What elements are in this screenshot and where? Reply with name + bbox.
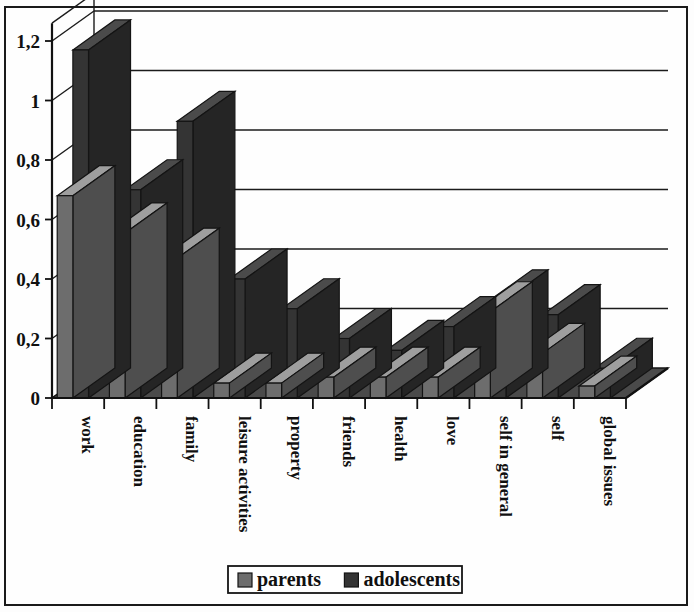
depth-connector-top (52, 0, 94, 23)
legend-label-adolescents: adolescents (363, 568, 460, 590)
x-category-label: self in general (496, 416, 515, 517)
y-tick-label: 1,2 (16, 31, 40, 52)
bar-front-face (214, 383, 230, 398)
x-category-label: global issues (600, 416, 619, 507)
x-axis-category-labels: workeducationfamilyleisure activitiespro… (78, 416, 619, 533)
x-category-label: self (548, 416, 567, 441)
y-tick-label: 0,2 (16, 329, 40, 350)
x-category-label: work (78, 416, 97, 454)
legend-swatch-parents (238, 573, 252, 587)
bar-side-face (125, 203, 167, 398)
x-category-label: friends (339, 416, 358, 467)
legend-swatch-adolescents (344, 573, 358, 587)
bar-front-face (266, 383, 282, 398)
bar-parents-work (57, 166, 115, 398)
y-tick-label: 0,4 (16, 269, 40, 290)
depth-connector (52, 11, 94, 41)
bar-side-face (177, 228, 219, 398)
x-category-label: property (287, 416, 306, 480)
y-tick-label: 0,8 (16, 150, 40, 171)
y-tick-label: 1 (31, 91, 41, 112)
legend: parentsadolescents (228, 566, 462, 593)
x-category-label: education (130, 416, 149, 487)
bar-chart: 00,20,40,60,811,2 workeducationfamilylei… (0, 0, 694, 612)
bar-side-face (73, 166, 115, 398)
legend-label-parents: parents (257, 568, 321, 591)
x-category-label: love (443, 416, 462, 446)
chart-page: 00,20,40,60,811,2 workeducationfamilylei… (0, 0, 694, 612)
bar-front-face (57, 196, 73, 398)
bars-layer (57, 20, 652, 398)
x-category-label: health (391, 416, 410, 462)
y-axis-tick-labels: 00,20,40,60,811,2 (16, 31, 40, 409)
y-tick-label: 0,6 (16, 210, 40, 231)
x-category-label: family (182, 416, 201, 463)
x-category-label: leisure activities (235, 416, 254, 533)
bar-front-face (579, 386, 595, 398)
y-tick-label: 0 (31, 388, 41, 409)
